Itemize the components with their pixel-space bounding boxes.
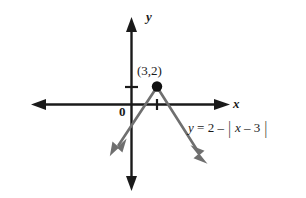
vertex-coordinate-label: (3,2) (137, 64, 162, 77)
abs-bar-close: | (265, 118, 268, 137)
equation-constant: 2 (208, 120, 215, 135)
equation-equals: = (197, 120, 204, 135)
origin-label: 0 (119, 105, 126, 118)
y-axis-label: y (146, 10, 152, 23)
equation-label: y = 2 – | x – 3 | (188, 121, 268, 134)
equation-inner-variable: x (235, 120, 241, 135)
y-axis-down-arrowhead (126, 176, 137, 191)
equation-inner-minus: – (244, 120, 251, 135)
right-ray-arrowhead (193, 147, 205, 162)
coordinate-plane (0, 0, 306, 198)
x-axis-label: x (233, 97, 240, 110)
x-axis-right-arrowhead (214, 99, 230, 110)
left-ray-arrowhead (111, 141, 125, 154)
x-axis-left-arrowhead (31, 99, 46, 110)
abs-bar-open: | (228, 118, 231, 137)
equation-lhs: y (188, 120, 194, 135)
equation-inner-constant: 3 (254, 120, 261, 135)
graph-figure: y x 0 (3,2) y = 2 – | x – 3 | (0, 0, 306, 198)
y-axis-up-arrowhead (126, 17, 137, 32)
equation-minus: – (217, 120, 224, 135)
vertex-point-marker (152, 81, 162, 91)
